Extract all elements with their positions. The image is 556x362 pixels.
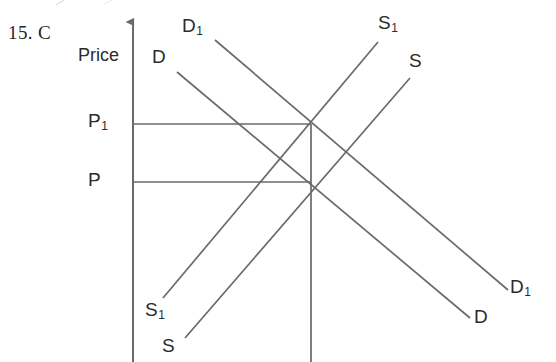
supply-shift-bottom-label: S1 <box>145 300 164 319</box>
supply-shift-top-subscript: 1 <box>391 21 398 35</box>
supply-top-label: S <box>409 51 422 70</box>
demand-shift-right-subscript: 1 <box>524 285 531 299</box>
supply-bottom-label: S <box>162 336 175 355</box>
demand-right-label: D <box>474 307 488 326</box>
supply-shift-top-text: S <box>378 12 391 33</box>
demand-shift-right-label: D1 <box>510 277 530 296</box>
demand-shift-right-text: D <box>510 276 524 297</box>
demand-shift-top-label: D1 <box>182 16 202 35</box>
price-level-p-label: P <box>88 170 101 189</box>
demand-top-label: D <box>152 47 166 66</box>
demand-curve-d <box>177 72 470 318</box>
supply-shift-bottom-text: S <box>145 299 158 320</box>
supply-shift-top-label: S1 <box>378 13 397 32</box>
price-level-p1-subscript: 1 <box>101 119 108 133</box>
scan-artifact-top <box>56 0 112 5</box>
demand-shift-top-subscript: 1 <box>196 24 203 38</box>
price-level-p1-text: P <box>88 110 101 131</box>
demand-shift-top-text: D <box>182 15 196 36</box>
supply-curve-s <box>185 78 410 338</box>
price-axis-label: Price <box>78 46 119 64</box>
figure-page: 15. C Price P1 P D1 D S1 S S1 S D1 D <box>0 0 556 362</box>
price-level-p1-label: P1 <box>88 111 107 130</box>
supply-shift-bottom-subscript: 1 <box>158 308 165 322</box>
supply-curve-s1 <box>163 42 378 298</box>
